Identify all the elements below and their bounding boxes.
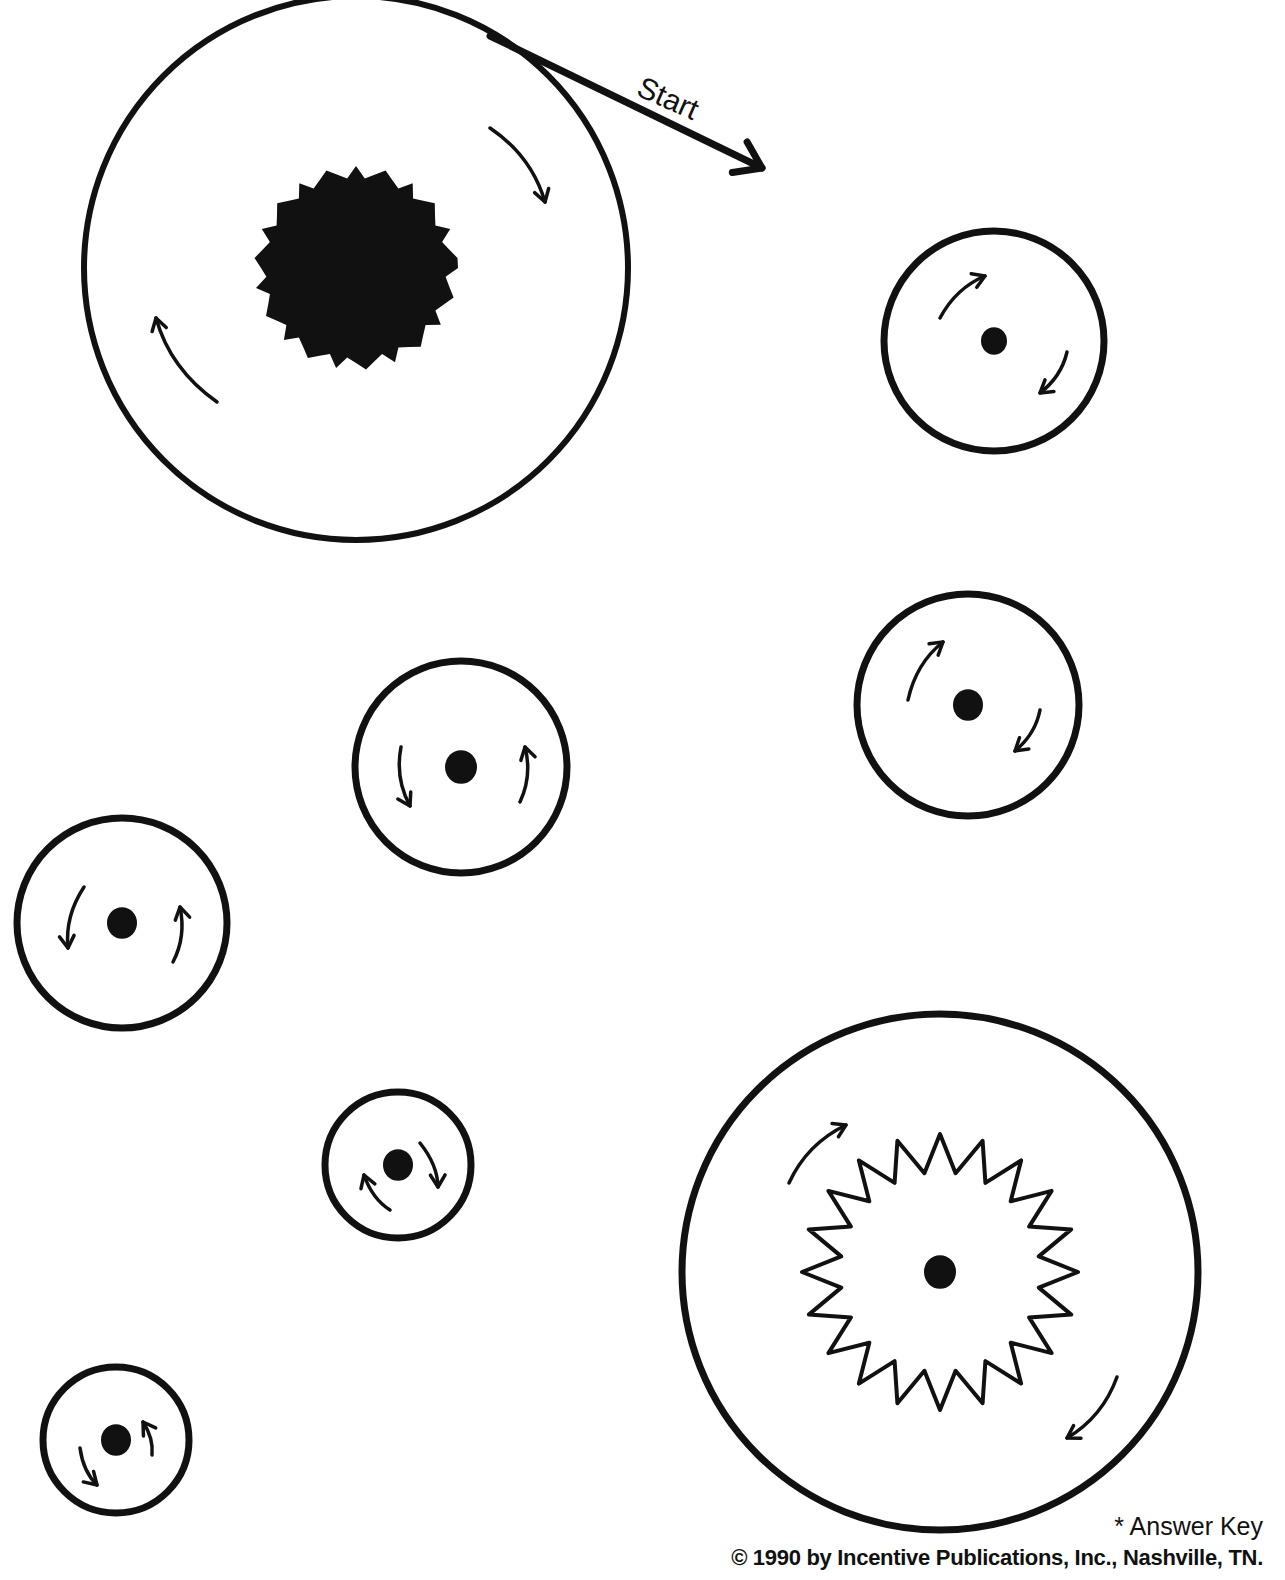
- circle-large-top-left: [84, 0, 628, 540]
- center-dot-icon: [924, 1255, 956, 1289]
- circle-small-center: [325, 1092, 471, 1238]
- arrow-cw-icon: [156, 318, 217, 402]
- arrow-ccw-icon: [399, 747, 410, 806]
- circle-medium-center: [355, 661, 567, 873]
- circles-layer: [17, 0, 1198, 1530]
- center-dot-icon: [953, 689, 983, 721]
- circle-medium-right-2: [857, 594, 1079, 816]
- maze-canvas: [0, 0, 1285, 1580]
- center-dot-icon: [101, 1424, 131, 1456]
- arrow-cw-icon: [1067, 1377, 1117, 1438]
- center-dot-icon: [107, 907, 137, 939]
- arrow-cw-icon: [908, 642, 943, 700]
- arrow-cw-icon: [940, 276, 985, 318]
- arrow-cw-icon: [490, 128, 545, 202]
- circle-medium-right-1: [884, 231, 1104, 451]
- center-dot-icon: [383, 1149, 413, 1181]
- answer-key-label: * Answer Key: [1114, 1512, 1263, 1541]
- start-arrow: [490, 36, 762, 172]
- center-dot-icon: [445, 750, 477, 784]
- center-dot-icon: [981, 327, 1007, 354]
- start-line: [490, 36, 762, 168]
- circle-large-bottom-right: [682, 1014, 1198, 1530]
- arrow-cw-icon: [789, 1125, 846, 1183]
- arrow-ccw-icon: [68, 887, 84, 948]
- circle-medium-left: [17, 818, 227, 1028]
- fuzzy-blob-icon: [255, 166, 459, 370]
- copyright-notice: © 1990 by Incentive Publications, Inc., …: [731, 1545, 1263, 1571]
- circle-small-bottom-left: [43, 1367, 189, 1513]
